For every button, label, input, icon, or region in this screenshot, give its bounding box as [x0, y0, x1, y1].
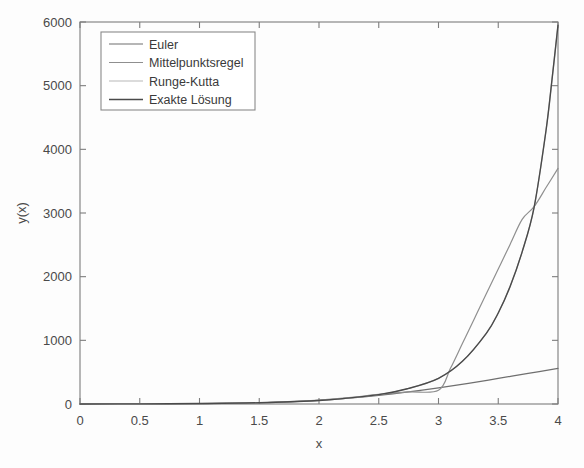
- x-tick-label: 4: [554, 413, 561, 428]
- y-tick-label: 1000: [43, 333, 72, 348]
- series-line-1: [80, 168, 558, 404]
- x-tick-label: 1: [196, 413, 203, 428]
- x-tick-label: 3.5: [489, 413, 507, 428]
- legend-label-2[interactable]: Runge-Kutta: [149, 75, 219, 89]
- x-tick-label: 2.5: [370, 413, 388, 428]
- y-tick-label: 4000: [43, 142, 72, 157]
- legend-label-3[interactable]: Exakte Lösung: [149, 93, 232, 107]
- axis-labels: 00.511.522.533.5401000200030004000500060…: [14, 15, 562, 452]
- x-tick-label: 0: [76, 413, 83, 428]
- chart-legend[interactable]: EulerMittelpunktsregelRunge-KuttaExakte …: [101, 32, 255, 110]
- line-chart: 00.511.522.533.5401000200030004000500060…: [0, 0, 584, 468]
- y-axis-title: y(x): [14, 202, 29, 224]
- x-tick-label: 0.5: [131, 413, 149, 428]
- y-tick-label: 6000: [43, 15, 72, 30]
- y-tick-label: 3000: [43, 206, 72, 221]
- y-tick-label: 0: [65, 397, 72, 412]
- x-tick-label: 1.5: [250, 413, 268, 428]
- legend-label-1[interactable]: Mittelpunktsregel: [149, 56, 244, 70]
- y-tick-label: 5000: [43, 78, 72, 93]
- figure-canvas: 00.511.522.533.5401000200030004000500060…: [0, 0, 584, 468]
- x-tick-label: 3: [435, 413, 442, 428]
- legend-label-0[interactable]: Euler: [149, 38, 178, 52]
- y-tick-label: 2000: [43, 269, 72, 284]
- x-axis-title: x: [316, 436, 323, 451]
- x-tick-label: 2: [315, 413, 322, 428]
